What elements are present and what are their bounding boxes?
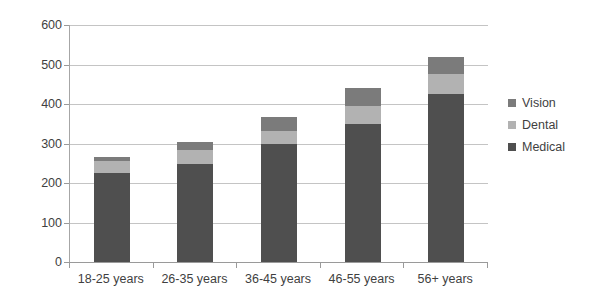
legend-label: Vision [522,96,556,110]
y-axis-tick-label: 400 [14,97,62,111]
gridline [70,65,488,66]
bar-segment-medical [94,173,130,262]
bar-4 [345,88,381,262]
x-axis-category-label: 56+ years [390,272,500,286]
y-axis-tick-label: 200 [14,176,62,190]
gridline [70,104,488,105]
stacked-bar-chart: 0100200300400500600 18-25 years26-35 yea… [0,0,589,298]
gridline [70,25,488,26]
plot-area [69,25,487,262]
legend-label: Dental [522,118,558,132]
legend-swatch-icon [508,143,516,151]
legend-swatch-icon [508,99,516,107]
y-axis-tick-label: 300 [14,137,62,151]
bar-1 [94,157,130,262]
bar-segment-dental [345,106,381,124]
x-axis-separator [487,262,488,268]
x-axis-separator [69,262,70,268]
bar-segment-vision [177,142,213,151]
bar-segment-dental [428,74,464,94]
bar-segment-dental [177,150,213,164]
x-axis-separator [236,262,237,268]
bar-2 [177,142,213,262]
bar-segment-medical [261,144,297,263]
bar-3 [261,117,297,262]
y-axis-tick-label: 600 [14,18,62,32]
bar-segment-dental [94,161,130,173]
bar-segment-vision [345,88,381,106]
legend-item-vision[interactable]: Vision [508,92,586,114]
y-axis-tick-label: 0 [14,255,62,269]
legend-swatch-icon [508,121,516,129]
x-axis-separator [153,262,154,268]
bar-5 [428,57,464,262]
bar-segment-medical [428,94,464,262]
axis-baseline [70,262,488,263]
x-axis-separator [403,262,404,268]
legend-item-dental[interactable]: Dental [508,114,586,136]
bar-segment-vision [261,117,297,131]
y-axis-tick-label: 500 [14,58,62,72]
legend-label: Medical [522,140,565,154]
chart-legend: VisionDentalMedical [508,92,586,158]
y-axis-tick-label: 100 [14,216,62,230]
bar-segment-vision [428,57,464,75]
legend-item-medical[interactable]: Medical [508,136,586,158]
x-axis-separator [320,262,321,268]
bar-segment-medical [345,124,381,262]
bar-segment-dental [261,131,297,144]
bar-segment-medical [177,164,213,262]
